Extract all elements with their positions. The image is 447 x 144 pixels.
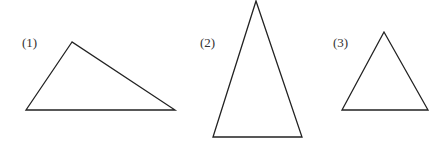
triangle-1	[26, 42, 175, 110]
figure-1-label: (1)	[22, 35, 37, 50]
triangle-3	[342, 32, 428, 110]
figure-2-label: (2)	[200, 35, 215, 50]
figure-3: (3)	[333, 32, 428, 110]
figure-3-label: (3)	[333, 35, 348, 50]
figure-1: (1)	[22, 35, 175, 110]
triangle-2	[213, 1, 302, 137]
figure-2: (2)	[200, 1, 302, 137]
triangles-diagram: (1) (2) (3)	[0, 0, 447, 144]
